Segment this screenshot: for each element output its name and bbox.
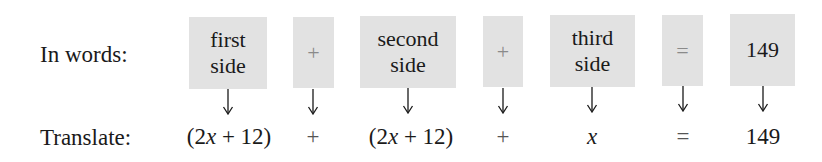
- plus-symbol: +: [307, 40, 319, 66]
- in-words-label: In words:: [40, 43, 128, 66]
- variable-x: x: [587, 124, 597, 149]
- word-box-second-side: second side: [360, 16, 456, 88]
- expr-prefix: (2: [187, 124, 206, 149]
- total-value: 149: [746, 37, 779, 63]
- word-box-first-side: first side: [189, 17, 267, 89]
- expr-suffix: + 12): [216, 124, 271, 149]
- variable-x: x: [206, 124, 216, 149]
- down-arrow-icon: [222, 89, 234, 115]
- word-box-plus-1: +: [293, 17, 334, 88]
- total-value: 149: [746, 124, 781, 149]
- word-line: side: [377, 52, 438, 78]
- word-box-plus-2: +: [483, 16, 523, 87]
- translate-label: Translate:: [40, 126, 131, 149]
- word-box-equals: =: [662, 15, 703, 86]
- word-line: side: [210, 53, 245, 79]
- translate-second-side: (2x + 12): [355, 125, 467, 148]
- plus-symbol: +: [497, 39, 509, 65]
- word-line: second: [377, 26, 438, 52]
- equals-symbol: =: [677, 124, 690, 149]
- down-arrow-icon: [307, 89, 319, 115]
- equals-symbol: =: [676, 38, 688, 64]
- translate-plus-2: +: [492, 125, 514, 148]
- expr-suffix: + 12): [398, 124, 453, 149]
- down-arrow-icon: [677, 86, 689, 112]
- down-arrow-icon: [497, 88, 509, 114]
- down-arrow-icon: [757, 86, 769, 112]
- word-line: side: [572, 51, 614, 77]
- translate-equals: =: [672, 125, 694, 148]
- word-line: first: [210, 27, 245, 53]
- plus-symbol: +: [497, 124, 510, 149]
- variable-x: x: [388, 124, 398, 149]
- word-box-total: 149: [730, 14, 795, 86]
- translate-third-side: x: [582, 125, 602, 148]
- translate-first-side: (2x + 12): [173, 125, 285, 148]
- expr-prefix: (2: [369, 124, 388, 149]
- down-arrow-icon: [402, 88, 414, 114]
- translate-total: 149: [742, 125, 784, 148]
- translate-plus-1: +: [302, 125, 324, 148]
- plus-symbol: +: [307, 124, 320, 149]
- word-box-third-side: third side: [550, 15, 635, 87]
- word-line: third: [572, 25, 614, 51]
- down-arrow-icon: [586, 87, 598, 113]
